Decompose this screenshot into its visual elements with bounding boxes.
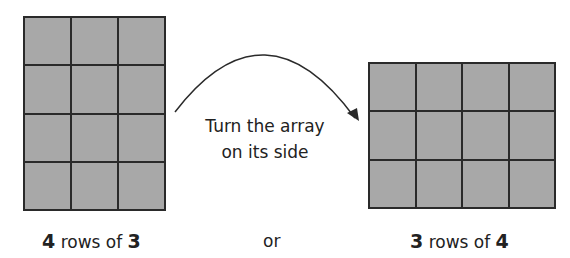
cols-number: 4 [496, 230, 509, 252]
arrow-caption-line1: Turn the array [185, 113, 345, 139]
rows-of-text: rows of [423, 232, 495, 252]
arrow-caption: Turn the array on its side [185, 113, 345, 165]
cols-number: 3 [128, 230, 141, 252]
right-array-label: 3 rows of 4 [410, 230, 509, 252]
rows-of-text: rows of [55, 232, 127, 252]
rows-number: 4 [42, 230, 55, 252]
left-array-label: 4 rows of 3 [42, 230, 141, 252]
connector-or: or [263, 231, 280, 251]
rows-number: 3 [410, 230, 423, 252]
arrow-caption-line2: on its side [185, 139, 345, 165]
